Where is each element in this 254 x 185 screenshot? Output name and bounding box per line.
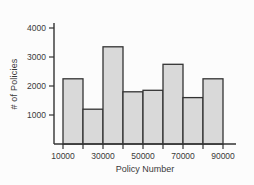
histogram-bar — [203, 79, 223, 144]
histogram-bar — [183, 98, 203, 144]
histogram-bar — [63, 79, 83, 144]
x-axis-title: Policy Number — [54, 164, 236, 174]
x-tick-label: 50000 — [131, 151, 155, 161]
histogram-bar — [103, 47, 123, 144]
x-tick-label: 90000 — [211, 151, 235, 161]
y-tick-label: 4000 — [27, 23, 46, 33]
x-tick-label: 10000 — [51, 151, 75, 161]
histogram-plot: 1000200030004000100003000050000700009000… — [0, 0, 254, 185]
x-tick-label: 30000 — [91, 151, 115, 161]
y-tick-label: 3000 — [27, 52, 46, 62]
histogram-bar — [143, 90, 163, 144]
y-axis-title: # of Policies — [9, 58, 19, 109]
y-tick-label: 1000 — [27, 110, 46, 120]
x-tick-label: 70000 — [171, 151, 195, 161]
y-tick-label: 2000 — [27, 81, 46, 91]
histogram-bar — [163, 64, 183, 144]
histogram-figure: 1000200030004000100003000050000700009000… — [0, 0, 254, 185]
histogram-bar — [83, 109, 103, 144]
histogram-bar — [123, 92, 143, 144]
